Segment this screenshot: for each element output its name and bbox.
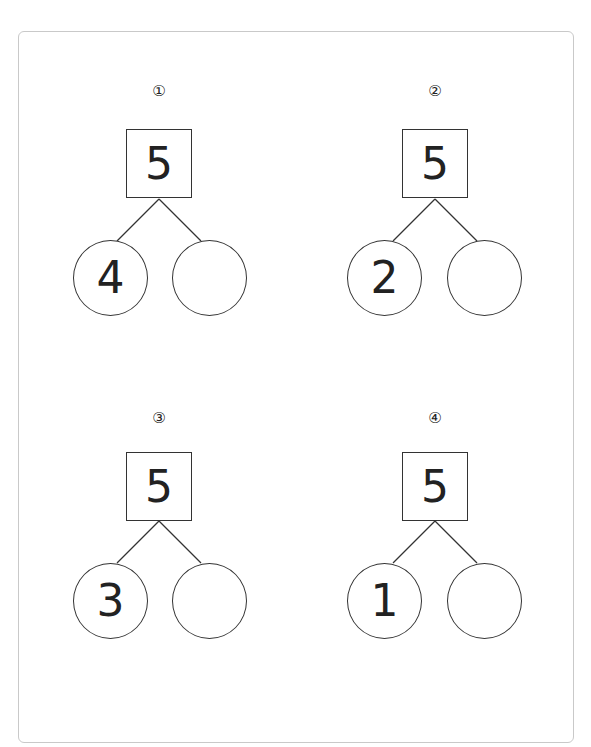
whole-number-box: 5 [126,452,192,521]
part-circle-right-answer[interactable] [447,240,522,316]
problem-number-label: ④ [335,410,535,426]
number-bond-problem-2: ② 5 2 [335,70,535,330]
part-circle-right-answer[interactable] [172,563,247,639]
number-bond-problem-3: ③ 5 3 [59,392,259,652]
part-circle-right-answer[interactable] [447,563,522,639]
problem-number-label: ① [59,83,259,99]
number-bond-problem-1: ① 5 4 [59,70,259,330]
part-circle-left: 4 [73,240,148,316]
problem-number-label: ③ [59,410,259,426]
part-circle-left: 3 [73,563,148,639]
whole-number-box: 5 [126,129,192,198]
problem-number-label: ② [335,83,535,99]
part-circle-right-answer[interactable] [172,240,247,316]
whole-number-box: 5 [402,129,468,198]
whole-number-box: 5 [402,452,468,521]
number-bond-problem-4: ④ 5 1 [335,392,535,652]
part-circle-left: 1 [347,563,422,639]
part-circle-left: 2 [347,240,422,316]
